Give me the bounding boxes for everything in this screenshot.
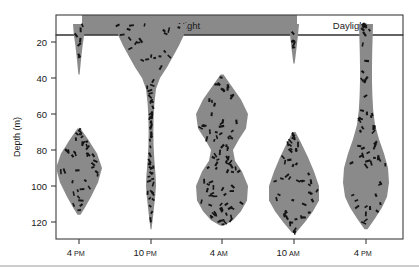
organism-mark: [361, 148, 365, 150]
organism-mark: [236, 120, 237, 125]
organism-mark: [295, 219, 298, 220]
organism-mark: [360, 119, 363, 120]
x-tick-label-meridiem-0: PM: [74, 249, 85, 258]
organism-mark: [372, 113, 373, 116]
organism-mark: [219, 220, 224, 221]
organism-mark: [153, 58, 156, 59]
organism-mark: [178, 27, 181, 28]
organism-mark: [287, 160, 291, 161]
organism-mark: [284, 214, 285, 217]
organism-mark: [151, 54, 152, 57]
organism-mark: [78, 54, 79, 57]
organism-mark: [214, 103, 215, 107]
organism-mark: [223, 89, 225, 92]
x-tick-label-meridiem-1: PM: [146, 249, 157, 258]
organism-mark: [226, 160, 228, 162]
y-axis-ticks: 20 40 60 80 100 120: [31, 37, 56, 228]
organism-mark: [79, 134, 82, 135]
organism-mark: [216, 159, 219, 160]
organism-mark: [145, 59, 149, 60]
x-tick-label-meridiem-2: AM: [217, 249, 228, 258]
organism-mark: [216, 167, 217, 169]
organism-mark: [73, 191, 74, 196]
organism-mark: [84, 180, 86, 182]
x-tick-label-hour-1: 10: [133, 247, 144, 258]
organism-mark: [148, 176, 151, 177]
organism-mark: [296, 163, 298, 165]
organism-mark: [294, 230, 295, 234]
diel-migration-figure: Night Daylight 20 40 60 80 100 120 Depth…: [0, 0, 419, 272]
cloud-area-surface-spike-4pm: [73, 24, 85, 74]
organism-mark: [208, 204, 211, 205]
organism-mark: [153, 166, 154, 169]
y-tick-label-80: 80: [36, 145, 47, 156]
organism-mark: [278, 194, 281, 196]
y-axis-title: Depth (m): [12, 117, 22, 157]
organism-mark: [380, 202, 381, 205]
figure-canvas: Night Daylight 20 40 60 80 100 120 Depth…: [0, 0, 419, 272]
organism-mark: [214, 139, 215, 142]
organism-mark: [151, 179, 154, 180]
organism-cloud-surface-spike-4pm: [73, 24, 85, 75]
organism-mark: [86, 144, 87, 147]
organism-mark: [220, 150, 221, 155]
organism-mark: [85, 141, 88, 142]
organism-mark: [144, 23, 145, 26]
light-band-header: Night Daylight: [56, 15, 403, 35]
x-tick-label-hour-3: 10: [276, 247, 287, 258]
organism-cloud-deep-layer-10am: [269, 132, 319, 235]
organism-mark: [301, 215, 302, 219]
organism-mark: [362, 42, 363, 46]
y-tick-label-60: 60: [36, 109, 47, 120]
organism-mark: [207, 184, 210, 185]
organism-mark: [274, 181, 277, 182]
organism-mark: [216, 135, 217, 139]
x-axis-ticks: [79, 239, 366, 244]
organism-mark: [150, 217, 151, 222]
organism-mark: [151, 121, 152, 126]
x-axis-tick-labels: 4 PM 10 PM 4 AM 10 AM 4 PM: [67, 247, 372, 258]
cloud-area-descent-column-4pm: [343, 24, 389, 229]
organism-mark: [211, 215, 212, 218]
x-tick-label-hour-0: 4: [67, 247, 72, 258]
organism-mark: [219, 126, 224, 127]
organism-mark: [201, 200, 202, 204]
organism-mark: [207, 167, 209, 168]
organism-mark: [77, 189, 78, 192]
organism-mark: [292, 164, 293, 167]
organism-mark: [308, 173, 309, 176]
organism-mark: [78, 200, 83, 201]
organism-cloud-surface-spike-10am: [289, 24, 299, 64]
organism-mark: [371, 115, 372, 118]
organism-mark: [357, 146, 361, 147]
organism-mark: [227, 169, 229, 173]
organism-mark: [276, 197, 277, 201]
organism-mark: [212, 157, 215, 158]
organism-mark: [375, 194, 376, 197]
y-tick-label-40: 40: [36, 73, 47, 84]
organism-mark: [222, 119, 223, 123]
organism-mark: [310, 192, 311, 195]
organism-mark: [202, 125, 206, 126]
organism-cloud-night-ascent-10pm: [114, 23, 188, 229]
y-tick-label-120: 120: [31, 217, 47, 228]
x-tick-label-hour-2: 4: [210, 247, 215, 258]
organism-mark: [97, 174, 98, 177]
organism-mark: [91, 167, 94, 168]
organism-mark: [292, 47, 295, 48]
organism-mark: [75, 153, 76, 156]
organism-mark: [311, 179, 312, 184]
organism-mark: [129, 25, 134, 26]
x-tick-label-meridiem-4: PM: [361, 249, 372, 258]
organism-mark: [149, 139, 150, 142]
organism-mark: [287, 141, 288, 146]
y-tick-label-20: 20: [36, 37, 47, 48]
organism-cloud-deep-layer-4pm: [56, 128, 102, 215]
organism-mark: [222, 224, 225, 225]
organism-cloud-descent-column-4pm: [343, 23, 389, 229]
organism-mark: [285, 160, 286, 164]
organism-cloud-group: [56, 23, 389, 234]
x-tick-label-meridiem-3: AM: [289, 249, 300, 258]
organism-mark: [207, 188, 208, 192]
organism-mark: [120, 34, 125, 35]
